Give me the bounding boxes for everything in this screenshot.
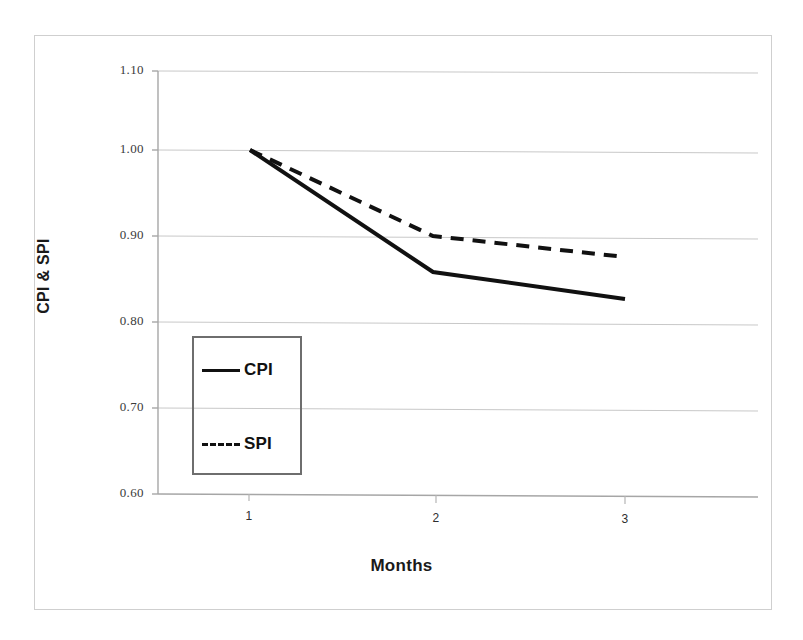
x-axis (158, 494, 758, 504)
x-axis-title: Months (0, 556, 803, 576)
series-line-spi (250, 150, 625, 257)
y-tick-label-0-80: 0.80 (88, 313, 144, 329)
legend-label-spi: SPI (244, 434, 272, 454)
legend-line-dashed-icon (202, 439, 240, 449)
x-tick-label-3: 3 (605, 512, 645, 526)
gridline-0-80 (158, 322, 758, 325)
gridline-1-00 (158, 150, 758, 153)
y-tick-label-0-70: 0.70 (88, 399, 144, 415)
legend-item-spi: SPI (202, 434, 272, 454)
chart-container: 1.10 1.00 0.90 0.80 0.70 0.60 1 2 3 Mont… (0, 0, 803, 640)
y-tick-label-1-10: 1.10 (88, 62, 144, 78)
legend-item-cpi: CPI (202, 360, 273, 380)
series-group (250, 150, 625, 299)
y-axis-title: CPI & SPI (35, 238, 53, 314)
x-tick-label-2: 2 (416, 511, 456, 525)
y-tick-label-0-90: 0.90 (88, 227, 144, 243)
series-line-cpi (250, 150, 625, 299)
chart-legend: CPI SPI (192, 336, 302, 475)
y-tick-label-1-00: 1.00 (88, 141, 144, 157)
x-axis-line (158, 494, 758, 497)
legend-line-solid-icon (202, 365, 240, 375)
y-tick-label-0-60: 0.60 (88, 485, 144, 501)
gridline-1-10 (158, 71, 758, 73)
legend-label-cpi: CPI (244, 360, 273, 380)
y-axis (152, 71, 158, 494)
x-tick-label-1: 1 (229, 509, 269, 523)
